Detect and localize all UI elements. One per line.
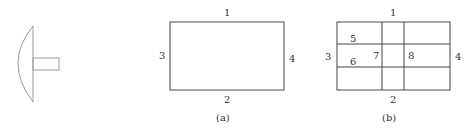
figure-a-label-bottom: 2 bbox=[224, 95, 230, 105]
figure-a-caption: (a) bbox=[216, 113, 230, 123]
figure-a-rectangle bbox=[170, 22, 284, 90]
figure-b-label-bottom: 2 bbox=[390, 95, 396, 105]
figure-b-caption: (b) bbox=[382, 113, 396, 123]
mushroom-shape-icon bbox=[18, 26, 59, 102]
figure-b-label-5: 5 bbox=[350, 34, 356, 44]
figure-b-label-left: 3 bbox=[325, 52, 331, 62]
figure-a-label-right: 4 bbox=[289, 54, 295, 64]
figure-b-label-top: 1 bbox=[390, 8, 396, 18]
figure-b-label-6: 6 bbox=[350, 57, 356, 67]
diagram-canvas bbox=[0, 0, 467, 135]
figure-a-label-left: 3 bbox=[159, 51, 165, 61]
figure-b-label-7: 7 bbox=[373, 51, 379, 61]
figure-a-label-top: 1 bbox=[224, 8, 230, 18]
figure-b-label-right: 4 bbox=[455, 52, 461, 62]
figure-b-label-8: 8 bbox=[408, 51, 414, 61]
